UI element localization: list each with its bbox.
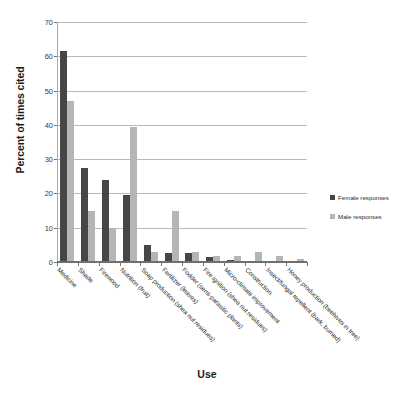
y-tick-label-10: 10 [45, 223, 53, 232]
bar [172, 211, 179, 262]
bar [123, 195, 130, 262]
bar-group [140, 22, 161, 262]
x-axis-title: Use [0, 368, 414, 380]
bars-layer [57, 22, 307, 262]
bar-group [286, 22, 307, 262]
bar-group [119, 22, 140, 262]
bar-chart: Percent of times cited 010203040506070 M… [0, 0, 414, 398]
bar [60, 51, 67, 262]
y-tick-label-70: 70 [45, 18, 53, 27]
x-axis-category-labels: MedicineShadeFirewoodNutrition (fruit)So… [57, 266, 307, 366]
y-tick-label-30: 30 [45, 155, 53, 164]
plot-area: 010203040506070 [57, 22, 307, 262]
legend-label: Female responses [338, 194, 389, 201]
bar [144, 245, 151, 262]
legend-swatch-icon [330, 214, 335, 219]
y-tick-label-40: 40 [45, 120, 53, 129]
plot-frame: 010203040506070 [57, 22, 307, 262]
bar [88, 211, 95, 262]
bar [109, 228, 116, 262]
y-tick-label-60: 60 [45, 52, 53, 61]
x-axis-category-label: Shade [77, 266, 95, 284]
x-axis-category-label: Medicine [56, 266, 79, 289]
legend-item: Female responses [330, 194, 414, 201]
bar-group [244, 22, 265, 262]
bar-group [224, 22, 245, 262]
legend-item: Male responses [330, 213, 414, 220]
bar [130, 127, 137, 262]
bar-group [203, 22, 224, 262]
legend: Female responsesMale responses [330, 194, 414, 232]
y-tick-label-0: 0 [49, 258, 53, 267]
bar-group [99, 22, 120, 262]
bar-group [265, 22, 286, 262]
x-axis-category-label: Fertilizer (leaves) [161, 266, 200, 305]
bar-group [182, 22, 203, 262]
y-tick-label-20: 20 [45, 189, 53, 198]
bar-group [57, 22, 78, 262]
y-tick-label-50: 50 [45, 86, 53, 95]
legend-label: Male responses [338, 213, 382, 220]
bar [102, 180, 109, 262]
bar-group [161, 22, 182, 262]
bar [67, 101, 74, 262]
x-tickmark [307, 262, 308, 266]
x-axis-category-label: Firewood [98, 266, 121, 289]
legend-swatch-icon [330, 195, 335, 200]
bar-group [78, 22, 99, 262]
y-axis-title: Percent of times cited [14, 40, 26, 200]
bar [81, 168, 88, 262]
